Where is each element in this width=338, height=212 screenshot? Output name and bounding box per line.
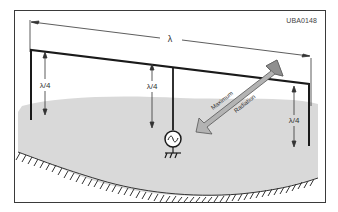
- figure-code: UBA0148: [286, 17, 317, 24]
- ac-generator-icon: [165, 131, 181, 147]
- quarter-wave-label-right: λ/4: [289, 116, 300, 125]
- wavelength-dimension: [30, 20, 311, 106]
- ground-region: [18, 97, 318, 196]
- quarter-wave-label-left: λ/4: [40, 81, 51, 90]
- antenna-diagram: λ λ/4 λ/4 λ/4 Maximum: [0, 0, 338, 212]
- wavelength-label: λ: [168, 34, 173, 44]
- quarter-wave-label-center: λ/4: [147, 82, 158, 91]
